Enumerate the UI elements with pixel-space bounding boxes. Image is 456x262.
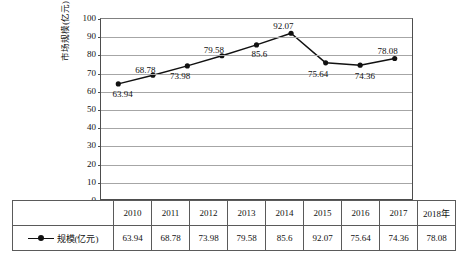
data-point-label: 73.98	[170, 71, 190, 81]
data-point-label: 85.6	[252, 49, 268, 59]
table-value-cell: 73.98	[190, 226, 228, 251]
y-axis-tickmark	[98, 55, 101, 56]
data-point-label: 74.36	[355, 71, 375, 81]
table-header-cell: 2014	[266, 201, 304, 226]
y-axis-tickmark	[98, 74, 101, 75]
table-header-cell: 2017	[380, 201, 418, 226]
gridline	[101, 183, 412, 184]
table-header-cell: 2012	[190, 201, 228, 226]
table-header-cell: 2016	[342, 201, 380, 226]
y-axis-tick-label: 100	[70, 14, 96, 23]
data-point-marker	[323, 60, 328, 65]
y-axis-tickmark	[98, 37, 101, 38]
data-point-label: 92.07	[273, 21, 293, 31]
y-axis-tick-labels: 1009080706050403020100	[70, 14, 96, 200]
y-axis-tickmark	[98, 183, 101, 184]
gridline	[101, 92, 412, 93]
y-axis-tick-label: 50	[70, 105, 96, 114]
table-header-cell: 2010	[114, 201, 152, 226]
data-point-marker	[254, 42, 259, 47]
table-header-cell: 2018年	[418, 201, 456, 226]
table-value-cell: 63.94	[114, 226, 152, 251]
y-axis-tickmark	[98, 128, 101, 129]
gridline	[101, 146, 412, 147]
y-axis-tick-label: 70	[70, 69, 96, 78]
y-axis-tick-label: 80	[70, 50, 96, 59]
y-axis-tickmark	[98, 92, 101, 93]
gridline	[101, 37, 412, 38]
y-axis-tickmark	[98, 19, 101, 20]
table-value-cell: 79.58	[228, 226, 266, 251]
y-axis-tickmark	[98, 110, 101, 111]
table-corner-cell	[13, 201, 114, 226]
gridline	[101, 110, 412, 111]
data-point-marker	[116, 81, 121, 86]
y-axis-tick-label: 20	[70, 160, 96, 169]
table-value-cell: 75.64	[342, 226, 380, 251]
data-point-label: 75.64	[308, 69, 328, 79]
legend-series-label: 规模(亿元)	[57, 232, 99, 245]
y-axis-tickmark	[98, 146, 101, 147]
data-point-marker	[358, 63, 363, 68]
gridline	[101, 128, 412, 129]
data-point-label: 78.08	[378, 46, 398, 56]
data-table-wrap: 201020112012201320142015201620172018年 规模…	[12, 200, 413, 248]
table-header-cell: 2011	[152, 201, 190, 226]
y-axis-tick-label: 60	[70, 87, 96, 96]
table-value-cell: 74.36	[380, 226, 418, 251]
table-header-cell: 2013	[228, 201, 266, 226]
data-point-marker	[185, 63, 190, 68]
plot-area	[100, 18, 413, 200]
gridline	[101, 165, 412, 166]
y-axis-tick-label: 10	[70, 178, 96, 187]
legend-series-cell: 规模(亿元)	[13, 226, 114, 251]
data-point-marker	[392, 56, 397, 61]
table-value-cell: 85.6	[266, 226, 304, 251]
data-point-label: 79.58	[204, 45, 224, 55]
data-table: 201020112012201320142015201620172018年 规模…	[12, 200, 456, 251]
table-row-values: 规模(亿元) 63.9468.7873.9879.5885.692.0775.6…	[13, 226, 456, 251]
table-value-cell: 78.08	[418, 226, 456, 251]
series-line-regui	[101, 19, 412, 199]
y-axis-tick-label: 30	[70, 141, 96, 150]
table-value-cell: 68.78	[152, 226, 190, 251]
legend-line-marker-icon	[28, 234, 54, 243]
y-axis-tickmark	[98, 165, 101, 166]
y-axis-tick-label: 40	[70, 123, 96, 132]
data-point-label: 68.78	[135, 65, 155, 75]
table-row-headers: 201020112012201320142015201620172018年	[13, 201, 456, 226]
data-point-marker	[288, 31, 293, 36]
data-point-label: 63.94	[112, 89, 132, 99]
table-value-cell: 92.07	[304, 226, 342, 251]
table-header-cell: 2015	[304, 201, 342, 226]
y-axis-tick-label: 90	[70, 32, 96, 41]
